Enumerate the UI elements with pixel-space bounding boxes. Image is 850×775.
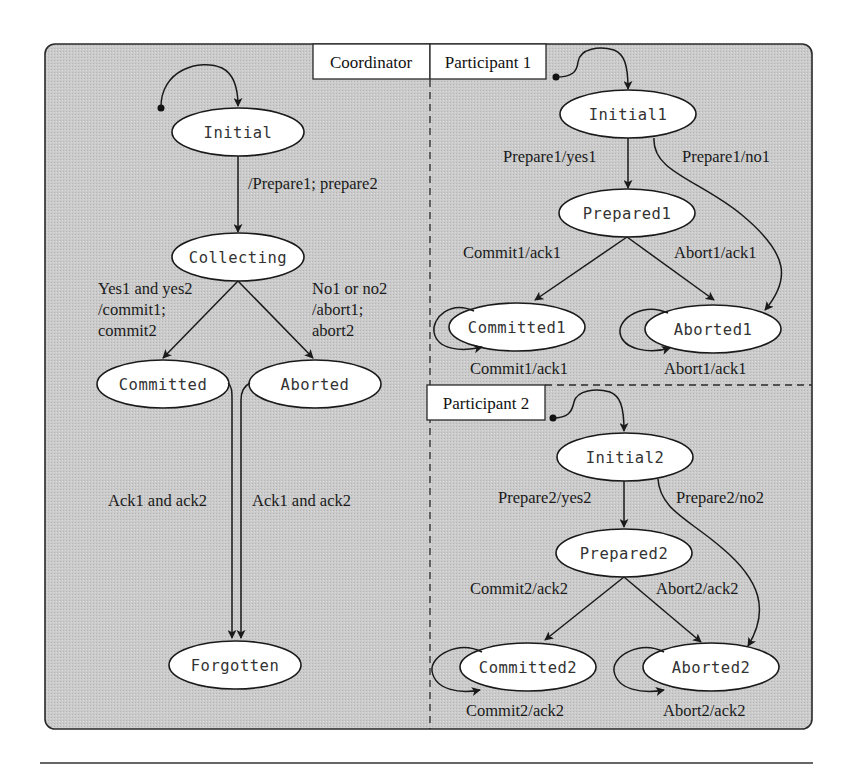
edge-label: /commit1; (98, 300, 166, 319)
state-diagram: Coordinator Participant 1 Participant 2 … (0, 0, 850, 775)
state-label: Aborted (281, 376, 350, 394)
edge-label: Abort1/ack1 (664, 359, 746, 378)
state-prepared1: Prepared1 (559, 189, 695, 237)
state-initial: Initial (172, 108, 304, 156)
lane-label-text: Participant 2 (443, 394, 529, 413)
edge-label: Yes1 and yes2 (98, 279, 193, 298)
state-collecting: Collecting (172, 233, 304, 281)
state-committed2: Committed2 (460, 643, 596, 691)
state-label: Prepared1 (583, 205, 672, 223)
edge-label: commit2 (98, 321, 157, 340)
state-label: Aborted2 (672, 659, 751, 677)
state-label: Initial1 (589, 106, 668, 124)
edge-label: Prepare1/yes1 (503, 147, 596, 166)
state-label: Initial2 (586, 449, 665, 467)
state-label: Committed (119, 376, 208, 394)
state-label: Prepared2 (580, 545, 669, 563)
state-label: Committed1 (468, 319, 566, 337)
edge-label: Ack1 and ack2 (252, 491, 351, 510)
edge-label: /Prepare1; prepare2 (248, 174, 378, 193)
edge-label: No1 or no2 (312, 279, 387, 298)
lane-label-coordinator: Coordinator (313, 44, 430, 79)
state-label: Collecting (189, 249, 287, 267)
state-label: Forgotten (191, 657, 280, 675)
state-aborted: Aborted (249, 360, 381, 408)
edge-label: Prepare1/no1 (682, 147, 770, 166)
lane-label-participant-1: Participant 1 (430, 44, 546, 79)
state-initial1: Initial1 (560, 90, 696, 138)
edge-label: Ack1 and ack2 (108, 491, 207, 510)
lane-label-text: Coordinator (330, 53, 412, 72)
edge-label: Prepare2/yes2 (498, 488, 591, 507)
lane-label-text: Participant 1 (445, 53, 531, 72)
lane-label-participant-2: Participant 2 (427, 385, 545, 420)
edge-label: Prepare2/no2 (676, 488, 764, 507)
edge-label: Abort2/ack2 (663, 701, 745, 720)
state-label: Committed2 (479, 659, 577, 677)
state-prepared2: Prepared2 (556, 529, 692, 577)
state-label: Initial (204, 124, 273, 142)
state-initial2: Initial2 (557, 433, 693, 481)
state-committed1: Committed1 (449, 303, 585, 351)
edge-label: Commit2/ack2 (470, 579, 568, 598)
state-forgotten: Forgotten (169, 641, 301, 689)
edge-label: Commit1/ack1 (463, 243, 561, 262)
state-aborted2: Aborted2 (643, 643, 779, 691)
edge-label: /abort1; (312, 300, 363, 319)
edge-label: Commit1/ack1 (470, 359, 568, 378)
edge-label: abort2 (312, 321, 354, 340)
edge-label: Commit2/ack2 (466, 701, 564, 720)
edge-label: Abort1/ack1 (674, 243, 756, 262)
state-committed: Committed (97, 360, 229, 408)
state-label: Aborted1 (674, 321, 753, 339)
edge-label: Abort2/ack2 (656, 579, 738, 598)
